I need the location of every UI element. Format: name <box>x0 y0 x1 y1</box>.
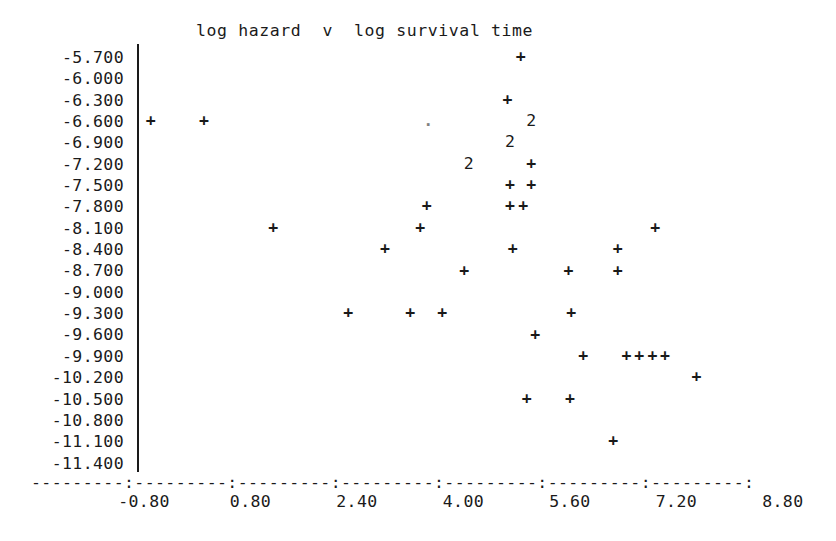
x-axis-tick-label: -0.80 <box>118 492 170 511</box>
data-point-marker: + <box>566 305 576 322</box>
data-point-marker: + <box>647 348 657 365</box>
data-point-marker: + <box>530 326 540 343</box>
data-point-marker: + <box>459 262 469 279</box>
data-point-marker: + <box>502 91 512 108</box>
data-point-marker: + <box>422 198 432 215</box>
data-point-marker: 2 <box>526 113 536 130</box>
data-point-marker: + <box>268 220 278 237</box>
data-point-marker: . <box>423 113 433 130</box>
data-point-marker: + <box>522 390 532 407</box>
x-axis-tick-label: 2.40 <box>336 492 377 511</box>
data-point-marker: + <box>516 49 526 66</box>
x-axis-rule: ---------:---------:---------:---------:… <box>31 476 754 490</box>
data-point-marker: + <box>505 198 515 215</box>
x-axis-tick-label: 7.20 <box>656 492 697 511</box>
data-point-marker: + <box>405 305 415 322</box>
data-point-marker: + <box>146 113 156 130</box>
data-point-marker: + <box>613 241 623 258</box>
data-point-marker: + <box>526 177 536 194</box>
x-axis-tick-label: 8.80 <box>762 492 803 511</box>
data-point-marker: + <box>691 369 701 386</box>
data-point-marker: 2 <box>505 134 515 151</box>
data-point-marker: + <box>660 348 670 365</box>
data-point-marker: + <box>518 198 528 215</box>
data-points-layer: ++.222+++++++++++++++++++++++++++++++ <box>0 0 836 541</box>
data-point-marker: + <box>634 348 644 365</box>
x-axis-tick-label: 5.60 <box>549 492 590 511</box>
data-point-marker: + <box>380 241 390 258</box>
x-axis-tick-labels: -0.800.802.404.005.607.208.80 <box>0 492 836 516</box>
data-point-marker: + <box>199 113 209 130</box>
data-point-marker: + <box>578 348 588 365</box>
data-point-marker: + <box>613 262 623 279</box>
data-point-marker: + <box>622 348 632 365</box>
data-point-marker: + <box>608 433 618 450</box>
data-point-marker: + <box>508 241 518 258</box>
data-point-marker: + <box>343 305 353 322</box>
data-point-marker: 2 <box>464 156 474 173</box>
x-axis-tick-label: 0.80 <box>230 492 271 511</box>
data-point-marker: + <box>564 262 574 279</box>
x-axis-tick-label: 4.00 <box>443 492 484 511</box>
data-point-marker: + <box>650 220 660 237</box>
data-point-marker: + <box>526 156 536 173</box>
data-point-marker: + <box>415 220 425 237</box>
scatter-plot-canvas: log hazard v log survival time -5.700-6.… <box>0 0 836 541</box>
data-point-marker: + <box>565 390 575 407</box>
data-point-marker: + <box>505 177 515 194</box>
data-point-marker: + <box>437 305 447 322</box>
